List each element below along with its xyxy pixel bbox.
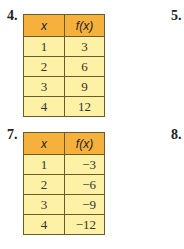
exercise-7-number: 7. — [7, 127, 18, 143]
exercise-4-number: 4. — [7, 8, 18, 24]
table-row: 2 6 — [24, 57, 105, 77]
column-header-fx: f(x) — [65, 15, 105, 37]
exercise-7-table: x f(x) 1 −3 2 −6 3 −9 4 −12 — [23, 132, 105, 235]
table-row: 3 9 — [24, 77, 105, 97]
x-cell: 3 — [24, 77, 65, 97]
table-row: 1 3 — [24, 37, 105, 57]
table-row: 3 −9 — [24, 195, 105, 215]
column-header-fx: f(x) — [65, 133, 105, 155]
x-cell: 1 — [24, 37, 65, 57]
x-cell: 3 — [24, 195, 65, 215]
exercise-8-number: 8. — [171, 127, 182, 143]
fx-cell: 9 — [65, 77, 105, 97]
x-cell: 4 — [24, 215, 65, 235]
fx-cell: −6 — [65, 175, 105, 195]
fx-cell: 6 — [65, 57, 105, 77]
fx-cell: 3 — [65, 37, 105, 57]
fx-cell: −9 — [65, 195, 105, 215]
exercise-4-table: x f(x) 1 3 2 6 3 9 4 12 — [23, 14, 105, 117]
table-row: 1 −3 — [24, 155, 105, 175]
exercise-5-number: 5. — [171, 8, 182, 24]
table-row: 2 −6 — [24, 175, 105, 195]
table-row: 4 12 — [24, 97, 105, 117]
x-cell: 4 — [24, 97, 65, 117]
fx-cell: −12 — [65, 215, 105, 235]
fx-cell: 12 — [65, 97, 105, 117]
x-cell: 2 — [24, 57, 65, 77]
x-cell: 1 — [24, 155, 65, 175]
fx-cell: −3 — [65, 155, 105, 175]
x-cell: 2 — [24, 175, 65, 195]
column-header-x: x — [24, 133, 65, 155]
table-row: 4 −12 — [24, 215, 105, 235]
column-header-x: x — [24, 15, 65, 37]
